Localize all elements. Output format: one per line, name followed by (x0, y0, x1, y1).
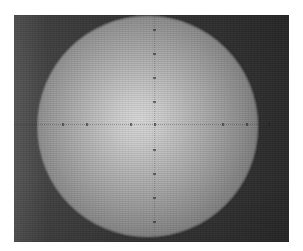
micrograph-image (14, 15, 289, 242)
sphere (36, 15, 259, 238)
reticle-tick (153, 173, 156, 175)
reticle-tick (246, 123, 248, 126)
reticle-tick (268, 123, 270, 126)
reticle-tick (153, 149, 156, 151)
reticle-tick (153, 77, 156, 79)
reticle-tick (154, 123, 156, 126)
reticle-vertical-line (154, 15, 155, 242)
reticle-tick (62, 123, 64, 126)
reticle-tick (153, 101, 156, 103)
page (0, 0, 303, 251)
reticle-tick (130, 123, 132, 126)
reticle-tick (153, 29, 156, 31)
reticle-tick (153, 221, 156, 223)
reticle-tick (222, 123, 224, 126)
reticle-tick (86, 123, 88, 126)
reticle-tick (153, 53, 156, 55)
reticle-tick (153, 197, 156, 199)
